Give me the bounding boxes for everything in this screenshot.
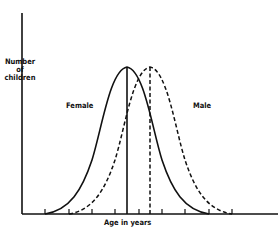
x-axis-label: Age in years [104,219,151,227]
y-axis-label-line3: children [2,74,38,82]
male-label: Male [193,102,211,110]
female-label: Female [66,102,93,110]
distribution-chart [0,0,280,234]
y-axis-label: Number of children [2,58,38,82]
